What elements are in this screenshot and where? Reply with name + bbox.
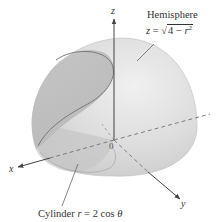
hemisphere-title: Hemisphere: [147, 10, 198, 21]
radicand-exponent: 2: [189, 24, 193, 32]
cylinder-label-prefix: Cylinder: [38, 208, 77, 219]
hemisphere-equation: z = √4 − r2: [146, 25, 193, 37]
y-axis-label: y: [181, 199, 185, 209]
radicand-constant: 4 −: [168, 25, 184, 36]
sqrt-expression: √4 − r2: [161, 25, 193, 37]
hemisphere-cylinder-figure: z x y 0 Hemisphere z = √4 − r2 Cylinder …: [0, 0, 216, 222]
cylinder-label-theta: θ: [117, 208, 122, 219]
cylinder-label-eq: = 2 cos: [81, 208, 117, 219]
x-axis-label: x: [9, 164, 13, 174]
x-axis: [18, 158, 50, 167]
y-axis: [148, 172, 180, 199]
radicand: 4 − r2: [167, 24, 193, 36]
eq-op: =: [150, 25, 161, 36]
cylinder-label: Cylinder r = 2 cos θ: [38, 209, 122, 220]
z-axis-label: z: [111, 6, 115, 16]
origin-label: 0: [109, 142, 114, 151]
